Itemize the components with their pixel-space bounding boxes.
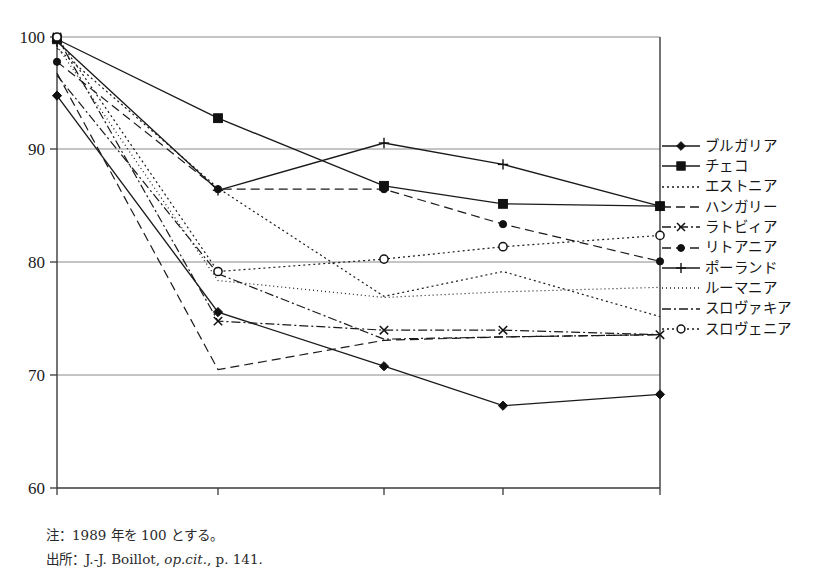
series-line (57, 39, 660, 206)
data-point-marker (677, 325, 685, 333)
legend-key-none-icon (660, 299, 702, 319)
data-point-marker (379, 138, 389, 148)
legend-item-9[interactable]: スロヴェニア (660, 319, 828, 339)
figure-page: 100 90 80 70 60 1990 1995 1999 2000 2001… (0, 0, 828, 586)
x-tick-marks (57, 488, 660, 495)
legend-label: エストニア (702, 179, 777, 194)
figure-notes: 注：1989 年を 100 とする。 出所：J.-J. Boillot, op.… (46, 524, 646, 571)
data-point-marker (380, 255, 388, 263)
legend-key-none-icon (660, 197, 702, 217)
y-tick-label: 60 (28, 479, 45, 498)
legend-item-7[interactable]: ルーマニア (660, 278, 828, 298)
note-base-year: 注：1989 年を 100 とする。 (46, 524, 646, 548)
data-point-marker (53, 58, 60, 65)
data-point-marker (53, 33, 61, 41)
y-tick-marks (50, 37, 57, 488)
data-point-marker (379, 362, 388, 371)
legend-item-5[interactable]: リトアニア (660, 237, 828, 257)
series-line (57, 96, 660, 406)
data-point-marker (499, 221, 506, 228)
legend-label: ラトビィア (702, 220, 777, 235)
legend-item-6[interactable]: ポーランド (660, 258, 828, 278)
y-tick-label: 80 (28, 253, 45, 272)
data-point-marker (498, 159, 508, 169)
legend-item-4[interactable]: ラトビィア (660, 217, 828, 237)
legend-key-none-icon (660, 177, 702, 197)
data-point-marker (214, 267, 222, 275)
y-tick-label: 100 (20, 28, 46, 47)
legend-key-circle-filled-icon (660, 238, 702, 258)
source-prefix: 出所：J.-J. Boillot, (46, 551, 164, 567)
series-line (57, 73, 660, 370)
legend-label: ハンガリー (702, 200, 777, 215)
series-3 (57, 73, 660, 370)
data-point-marker (655, 390, 664, 399)
data-point-marker (676, 263, 686, 273)
legend-label: スロヴェニア (702, 322, 791, 337)
data-point-marker (678, 244, 685, 251)
legend-label: リトアニア (702, 240, 777, 255)
series-line (57, 75, 660, 339)
legend-label: ルーマニア (702, 281, 777, 296)
legend-item-1[interactable]: チェコ (660, 156, 828, 176)
data-point-marker (214, 114, 223, 123)
data-point-marker (499, 243, 507, 251)
data-point-marker (677, 162, 685, 170)
legend-key-none-icon (660, 278, 702, 298)
series-line (57, 62, 660, 262)
source-citation-italic: op.cit. (164, 551, 207, 567)
legend-item-2[interactable]: エストニア (660, 177, 828, 197)
legend-key-cross-icon (660, 217, 702, 237)
source-suffix: , p. 141. (207, 551, 263, 567)
series-line (57, 37, 660, 335)
legend-label: ブルガリア (702, 139, 777, 154)
series-0 (52, 91, 664, 410)
y-tick-label: 70 (28, 366, 45, 385)
data-point-marker (380, 186, 387, 193)
legend-key-square-filled-icon (660, 156, 702, 176)
y-tick-label: 90 (28, 140, 45, 159)
data-series-layer (52, 33, 665, 410)
legend-item-3[interactable]: ハンガリー (660, 197, 828, 217)
series-9 (53, 33, 664, 276)
data-point-marker (499, 199, 508, 208)
legend-key-plus-icon (660, 258, 702, 278)
data-point-marker (498, 401, 507, 410)
series-4 (53, 33, 664, 339)
data-point-marker (677, 142, 686, 151)
legend-label: ポーランド (702, 261, 777, 276)
legend-item-0[interactable]: ブルガリア (660, 136, 828, 156)
legend-key-diamond-filled-icon (660, 136, 702, 156)
legend-label: チェコ (702, 159, 748, 174)
series-line (57, 42, 660, 207)
gridlines (57, 37, 660, 375)
y-tick-labels: 100 90 80 70 60 (20, 28, 46, 498)
legend-item-8[interactable]: スロヴァキア (660, 298, 828, 318)
series-line (57, 37, 660, 272)
note-source: 出所：J.-J. Boillot, op.cit., p. 141. (46, 548, 646, 572)
legend-key-circle-open-icon (660, 319, 702, 339)
chart-legend: ブルガリアチェコエストニアハンガリーラトビィアリトアニアポーランドルーマニアスロ… (660, 136, 828, 339)
legend-label: スロヴァキア (702, 301, 791, 316)
series-8 (57, 75, 660, 339)
